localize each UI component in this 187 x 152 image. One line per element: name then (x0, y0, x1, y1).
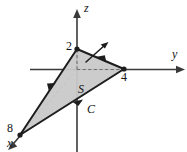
y-intercept-label: 4 (121, 71, 127, 83)
x-intercept-label: 8 (7, 122, 13, 134)
figure-container: z y x 2 4 8 S C (0, 0, 187, 152)
z-axis-arrowhead (73, 9, 81, 18)
coordinate-diagram (0, 0, 187, 152)
y-axis-arrowhead (176, 66, 185, 74)
curve-label: C (87, 103, 95, 115)
surface-label: S (78, 83, 84, 95)
vertex-dot-z (74, 46, 79, 51)
y-axis-label: y (172, 48, 177, 60)
z-axis-label: z (84, 2, 89, 14)
x-axis-label: x (7, 137, 12, 149)
vertex-dot-x (17, 132, 22, 137)
z-intercept-label: 2 (66, 40, 72, 52)
